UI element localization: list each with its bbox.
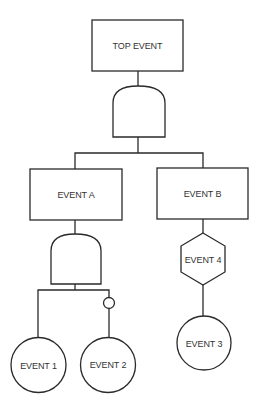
- and-gate-a-icon: [51, 234, 101, 284]
- connector-gate-a-branches: [38, 290, 109, 337]
- event-3-label: EVENT 3: [186, 339, 223, 349]
- event-4-label: EVENT 4: [185, 255, 222, 265]
- connector-gate-to-events: [75, 153, 203, 169]
- event-1-label: EVENT 1: [20, 361, 57, 371]
- not-circle-icon: [104, 298, 115, 309]
- fault-tree-diagram: [0, 0, 261, 416]
- and-gate-icon: [113, 86, 165, 137]
- event-b-label: EVENT B: [184, 189, 222, 199]
- top-event-label: TOP EVENT: [113, 41, 163, 51]
- event-a-label: EVENT A: [57, 190, 94, 200]
- event-2-label: EVENT 2: [90, 360, 127, 370]
